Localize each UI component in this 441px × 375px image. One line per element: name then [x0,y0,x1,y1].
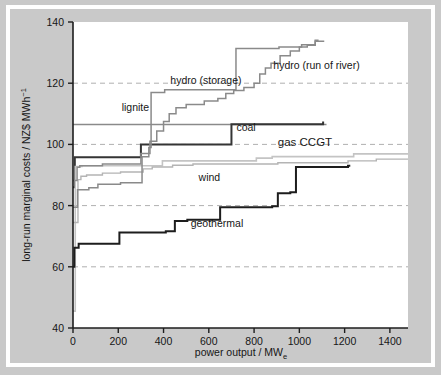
x-tick-label-0: 0 [70,335,76,347]
y-axis-title-exponent: −1 [19,88,28,97]
series-label-gas-ccgt: gas CCGT [278,136,332,148]
y-axis-title-text: long-run marginal costs / NZ$ MWh [20,97,32,262]
series-label-coal: coal [236,121,255,133]
y-tick-label-140: 140 [46,16,64,28]
x-tick-label-1200: 1200 [333,335,357,347]
y-tick-label-60: 60 [52,261,64,273]
y-tick-label-40: 40 [52,322,64,334]
y-tick-label-80: 80 [52,200,64,212]
y-tick-label-120: 120 [46,77,64,89]
x-tick-label-200: 200 [110,335,128,347]
series-label-hydro-run-of-river: hydro (run of river) [273,59,359,71]
y-axis-title: long-run marginal costs / NZ$ MWh−1 [19,88,32,262]
x-axis-title-text: power output / MW [195,346,283,358]
x-axis-title-subscript: e [283,352,287,361]
series-label-wind: wind [198,171,221,183]
x-tick-label-1400: 1400 [378,335,402,347]
y-tick-label-100: 100 [46,138,64,150]
series-label-lignite: lignite [122,101,150,113]
figure-container: 406080100120140 020040060080010001200140… [0,0,441,375]
svg-text:long-run marginal costs / NZ$: long-run marginal costs / NZ$ MWh−1 [19,88,32,262]
chart-svg: 406080100120140 020040060080010001200140… [0,0,441,375]
x-tick-label-400: 400 [155,335,173,347]
series-label-geothermal: geothermal [191,217,244,229]
x-tick-label-1000: 1000 [288,335,312,347]
series-label-hydro-storage: hydro (storage) [170,74,241,86]
